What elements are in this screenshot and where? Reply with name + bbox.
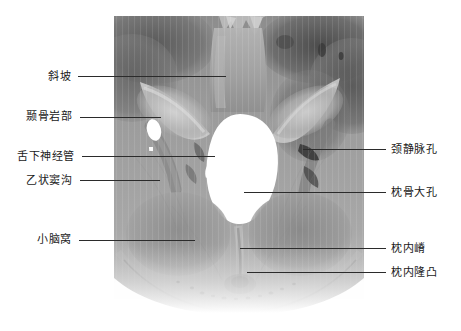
- label-sigmoid-sulcus: 乙状窦沟: [26, 174, 72, 187]
- leader-line-jugular-foramen: [303, 149, 386, 150]
- skull-base-photograph: [114, 16, 364, 313]
- anatomy-figure: 斜坡 颞骨岩部 舌下神经管 乙状窦沟 小脑窝 颈静脉孔 枕骨大孔 枕内嵴 枕内隆…: [0, 0, 461, 331]
- label-jugular-foramen: 颈静脉孔: [391, 143, 437, 156]
- label-clivus: 斜坡: [48, 70, 71, 83]
- leader-line-hypoglossal-canal: [82, 156, 215, 157]
- leader-line-foramen-magnum: [244, 192, 386, 193]
- leader-line-internal-occipital-crest: [240, 248, 386, 249]
- label-petrous-temporal: 颞骨岩部: [26, 110, 72, 123]
- label-internal-occipital-protuberance: 枕内隆凸: [391, 266, 437, 279]
- skull-base-image: [114, 16, 364, 313]
- label-internal-occipital-crest: 枕内嵴: [391, 242, 426, 255]
- label-cerebellar-fossa: 小脑窝: [37, 233, 72, 246]
- leader-line-cerebellar-fossa: [79, 240, 195, 241]
- leader-line-sigmoid-sulcus: [80, 180, 160, 181]
- label-foramen-magnum: 枕骨大孔: [391, 186, 437, 199]
- label-hypoglossal-canal: 舌下神经管: [17, 150, 75, 163]
- leader-line-clivus: [78, 76, 226, 77]
- leader-line-petrous-temporal: [80, 117, 161, 118]
- leader-line-internal-occipital-protuberance: [247, 272, 386, 273]
